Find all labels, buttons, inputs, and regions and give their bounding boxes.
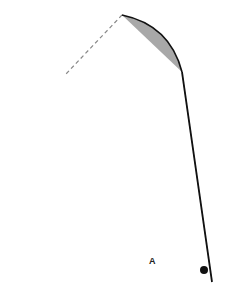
- fishing-rod-diagram: [0, 0, 236, 302]
- reel-icon: [200, 266, 208, 274]
- point-label-a: A: [149, 256, 156, 266]
- rod-bend-shaded-region: [122, 15, 182, 72]
- rod-shaft: [182, 72, 212, 282]
- straight-rod-reference-dashed-line: [65, 15, 122, 75]
